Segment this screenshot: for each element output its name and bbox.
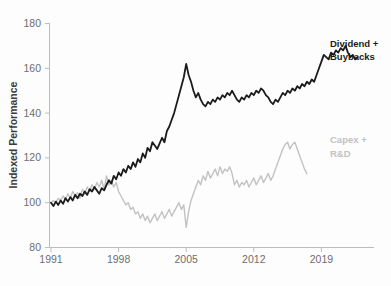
series-label-capex-line2: R&D — [330, 148, 351, 159]
x-tick-label-2019: 2019 — [310, 253, 334, 265]
x-tick-label-1991: 1991 — [39, 253, 63, 265]
y-tick-label-140: 140 — [23, 107, 41, 119]
line-chart-svg: Indexed Performance 180 160 140 120 100 … — [0, 0, 391, 286]
series-label-dividend-line1: Dividend + — [330, 38, 379, 49]
y-tick-label-160: 160 — [23, 62, 41, 74]
y-axis-title: Indexed Performance — [7, 81, 19, 188]
series-label-dividend-line2: Buybacks — [330, 51, 375, 62]
y-tick-label-100: 100 — [23, 196, 41, 208]
y-tick-label-120: 120 — [23, 151, 41, 163]
chart-container: Indexed Performance 180 160 140 120 100 … — [0, 0, 391, 286]
x-tick-label-2005: 2005 — [175, 253, 199, 265]
y-tick-label-80: 80 — [29, 241, 41, 253]
y-tick-label-180: 180 — [23, 17, 41, 29]
series-label-capex-line1: Capex + — [330, 134, 367, 145]
x-tick-label-1998: 1998 — [107, 253, 131, 265]
x-tick-label-2012: 2012 — [242, 253, 266, 265]
